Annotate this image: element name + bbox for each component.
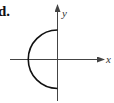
x-axis-label: x xyxy=(105,53,111,65)
y-axis-label: y xyxy=(61,7,67,19)
graph: y x xyxy=(0,0,114,103)
